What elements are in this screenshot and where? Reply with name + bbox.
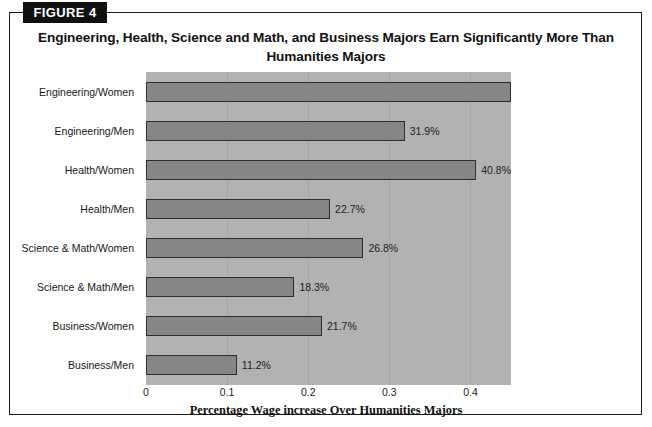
bar[interactable]	[146, 160, 476, 180]
bar[interactable]	[146, 277, 294, 297]
bar-row: 22.7%	[146, 189, 511, 228]
x-axis-tick-label: 0.2	[301, 386, 316, 398]
figure-root: FIGURE 4 Engineering, Health, Science an…	[0, 0, 652, 427]
bar[interactable]	[146, 199, 330, 219]
y-axis-label: Business/Women	[52, 307, 134, 346]
bar-row: 31.9%	[146, 111, 511, 150]
bar-value-label: 22.7%	[335, 203, 365, 215]
x-axis-tick-label: 0	[143, 386, 149, 398]
bar-row: 26.8%	[146, 229, 511, 268]
bar-value-label: 26.8%	[368, 242, 398, 254]
bar[interactable]	[146, 355, 237, 375]
bar[interactable]	[146, 316, 322, 336]
y-axis-label: Science & Math/Men	[37, 268, 134, 307]
bar[interactable]	[146, 121, 405, 141]
bar-value-label: 31.9%	[410, 125, 440, 137]
y-axis-label: Business/Men	[68, 346, 134, 385]
y-axis-label: Engineering/Men	[55, 111, 134, 150]
figure-number-badge: FIGURE 4	[23, 2, 107, 23]
bar-row	[146, 72, 511, 111]
x-axis-tick-label: 0.3	[382, 386, 397, 398]
bar[interactable]	[146, 82, 511, 102]
y-axis-label: Engineering/Women	[39, 72, 134, 111]
x-axis-title: Percentage Wage increase Over Humanities…	[26, 403, 626, 418]
bars-layer: 31.9%40.8%22.7%26.8%18.3%21.7%11.2%	[146, 72, 511, 385]
x-axis-tick-label: 0.4	[463, 386, 478, 398]
bar-row: 40.8%	[146, 150, 511, 189]
bar-value-label: 18.3%	[299, 281, 329, 293]
y-axis-label: Health/Men	[80, 189, 134, 228]
y-axis-label: Science & Math/Women	[22, 229, 134, 268]
x-axis-tick-label: 0.1	[220, 386, 235, 398]
chart-title: Engineering, Health, Science and Math, a…	[26, 28, 626, 67]
y-axis-category-labels: Engineering/WomenEngineering/MenHealth/W…	[6, 72, 140, 385]
bar-value-label: 21.7%	[327, 320, 357, 332]
bar-value-label: 11.2%	[242, 359, 271, 371]
bar-row: 18.3%	[146, 268, 511, 307]
bar[interactable]	[146, 238, 363, 258]
plot-wrap: 31.9%40.8%22.7%26.8%18.3%21.7%11.2%	[146, 72, 511, 385]
y-axis-label: Health/Women	[65, 150, 134, 189]
bar-value-label: 40.8%	[481, 164, 511, 176]
bar-row: 21.7%	[146, 307, 511, 346]
x-axis-tick-labels: 00.10.20.30.4	[146, 386, 511, 401]
bar-row: 11.2%	[146, 346, 511, 385]
